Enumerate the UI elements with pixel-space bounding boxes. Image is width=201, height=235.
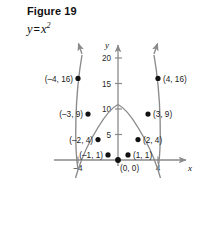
equation-exponent: 2 xyxy=(47,21,51,30)
point-label-2-4: (2, 4) xyxy=(143,136,162,145)
data-point-marker[interactable] xyxy=(125,152,130,157)
y-tick-label-5: 5 xyxy=(106,131,111,140)
point-label-1-1: (1, 1) xyxy=(133,151,152,160)
data-point-marker[interactable] xyxy=(135,137,140,142)
parabola-plot: y x 5 10 15 20 –4 4 (–4, 16) (–3, 9) (–2… xyxy=(0,38,201,178)
point-label-neg2-4: (–2, 4) xyxy=(69,136,93,145)
figure-container: Figure 19 y=x2 y x xyxy=(0,0,201,235)
y-tick-label-15: 15 xyxy=(102,80,112,89)
curve-arrow-right xyxy=(154,44,158,55)
point-label-neg4-16: (–4, 16) xyxy=(45,75,73,84)
data-point-marker[interactable] xyxy=(85,112,90,117)
y-tick-label-20: 20 xyxy=(102,54,112,63)
data-point-marker[interactable] xyxy=(145,112,150,117)
point-label-3-9: (3, 9) xyxy=(153,110,172,119)
equation-lhs: y xyxy=(27,22,33,36)
y-tick-label-10: 10 xyxy=(102,105,112,114)
equation-operator: = xyxy=(33,23,41,35)
data-point-marker[interactable] xyxy=(115,157,121,163)
point-label-neg1-1: (–1, 1) xyxy=(79,151,103,160)
x-axis-label: x xyxy=(187,163,192,173)
point-label-0-0: (0, 0) xyxy=(120,164,139,173)
data-point-marker[interactable] xyxy=(75,76,80,81)
y-axis-label: y xyxy=(104,40,109,50)
figure-equation: y=x2 xyxy=(27,21,51,37)
point-label-neg3-9: (–3, 9) xyxy=(59,110,83,119)
data-point-marker[interactable] xyxy=(155,76,160,81)
curve-arrow-left xyxy=(78,44,82,55)
data-point-marker[interactable] xyxy=(105,152,110,157)
point-label-4-16: (4, 16) xyxy=(163,75,187,84)
figure-title: Figure 19 xyxy=(27,5,77,17)
data-point-marker[interactable] xyxy=(95,137,100,142)
